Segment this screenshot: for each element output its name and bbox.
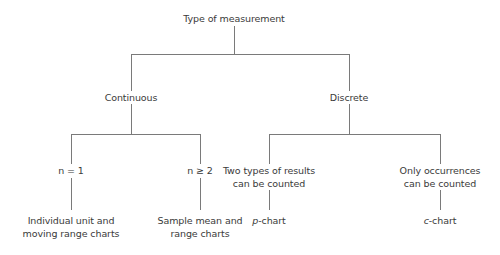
node-only-occurrences-line1: Only occurrences bbox=[400, 165, 481, 178]
leaf-sample-line1: Sample mean and bbox=[158, 215, 243, 228]
node-continuous: Continuous bbox=[105, 92, 158, 105]
leaf-individual-unit-moving-range: Individual unit and moving range charts bbox=[23, 215, 120, 240]
node-two-types-line2: can be counted bbox=[223, 178, 315, 191]
c-chart-suffix: -chart bbox=[429, 215, 457, 226]
p-chart-suffix: -chart bbox=[258, 215, 286, 226]
node-two-types-line1: Two types of results bbox=[223, 165, 315, 178]
leaf-sample-line2: range charts bbox=[158, 228, 243, 241]
leaf-individual-line2: moving range charts bbox=[23, 228, 120, 241]
leaf-p-chart: p-chart bbox=[252, 215, 285, 228]
leaf-c-chart: c-chart bbox=[424, 215, 457, 228]
leaf-individual-line1: Individual unit and bbox=[23, 215, 120, 228]
node-discrete: Discrete bbox=[330, 92, 368, 105]
node-two-types-of-results: Two types of results can be counted bbox=[223, 165, 315, 190]
root-node-type-of-measurement: Type of measurement bbox=[183, 13, 284, 26]
leaf-sample-mean-range: Sample mean and range charts bbox=[158, 215, 243, 240]
node-n-equals-1: n = 1 bbox=[58, 165, 84, 178]
node-only-occurrences-line2: can be counted bbox=[400, 178, 481, 191]
node-only-occurrences: Only occurrences can be counted bbox=[400, 165, 481, 190]
node-n-ge-2: n ≥ 2 bbox=[187, 165, 213, 178]
